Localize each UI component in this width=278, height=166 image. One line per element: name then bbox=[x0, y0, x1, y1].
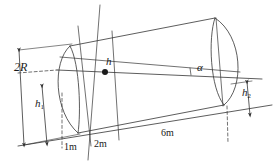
label-dim-6m: 6m bbox=[161, 128, 174, 138]
station-line-3 bbox=[112, 31, 119, 140]
ground-reference-line bbox=[18, 105, 272, 146]
dim-h2-ext-top bbox=[231, 81, 252, 84]
label-h1: h1 bbox=[35, 98, 44, 111]
right-cap-outline bbox=[215, 18, 238, 105]
vessel-diagram: 2R h1 h2 h α 1m 2m 6m bbox=[0, 0, 278, 166]
label-h2-subscript: 2 bbox=[248, 92, 251, 99]
angle-tick bbox=[190, 68, 191, 75]
plumb-dashed-right bbox=[227, 106, 228, 143]
dim-2R-ext-top bbox=[19, 44, 72, 50]
cylinder-bottom-edge bbox=[78, 105, 224, 133]
station-line-2 bbox=[78, 26, 91, 146]
label-center-h: h bbox=[106, 56, 112, 67]
center-point-marker bbox=[102, 69, 108, 75]
label-dim-1m: 1m bbox=[64, 142, 77, 152]
dim-h1-line bbox=[42, 86, 47, 144]
label-h1-subscript: 1 bbox=[41, 103, 44, 110]
label-dim-2m: 2m bbox=[94, 139, 107, 149]
label-diameter-2R: 2R bbox=[14, 61, 27, 73]
left-cap-seam bbox=[70, 46, 79, 133]
liquid-surface-back bbox=[60, 57, 240, 72]
label-angle-alpha: α bbox=[197, 62, 203, 73]
label-h2: h2 bbox=[242, 87, 251, 100]
cylinder-top-edge bbox=[70, 18, 215, 46]
vessel-drawing bbox=[0, 0, 278, 166]
